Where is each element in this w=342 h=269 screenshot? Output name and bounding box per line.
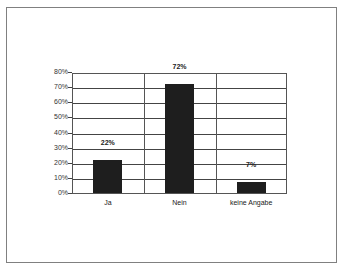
y-tick-label: 40%: [40, 129, 68, 136]
category-divider: [144, 74, 145, 193]
y-tick-mark: [68, 102, 72, 103]
y-tick-mark: [68, 117, 72, 118]
x-category-label: Ja: [72, 199, 144, 206]
y-tick-mark: [68, 163, 72, 164]
y-tick-mark: [68, 87, 72, 88]
y-tick-label: 30%: [40, 144, 68, 151]
y-tick-mark: [68, 133, 72, 134]
y-tick-label: 10%: [40, 174, 68, 181]
y-tick-label: 60%: [40, 98, 68, 105]
bar-keine-angabe: [237, 182, 266, 193]
y-tick-label: 20%: [40, 159, 68, 166]
data-label: 7%: [231, 161, 271, 168]
x-category-label: keine Angabe: [215, 199, 287, 206]
category-divider: [216, 74, 217, 193]
y-tick-label: 50%: [40, 113, 68, 120]
bar-nein: [165, 84, 194, 193]
data-label: 22%: [88, 139, 128, 146]
x-category-label: Nein: [144, 199, 216, 206]
y-tick-label: 80%: [40, 68, 68, 75]
y-tick-mark: [68, 148, 72, 149]
y-tick-mark: [68, 178, 72, 179]
data-label: 72%: [160, 63, 200, 70]
y-tick-mark: [68, 193, 72, 194]
y-tick-label: 0%: [40, 189, 68, 196]
y-tick-label: 70%: [40, 83, 68, 90]
bar-ja: [93, 160, 122, 193]
y-tick-mark: [68, 72, 72, 73]
